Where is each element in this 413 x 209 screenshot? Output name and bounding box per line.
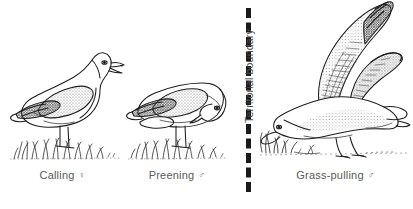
boundary-label: Territorial boundary	[243, 0, 255, 176]
caption-preening-label: Preening	[149, 169, 195, 181]
panel-calling: Calling♀	[0, 0, 125, 209]
sex-symbol-female: ♀	[79, 170, 86, 180]
panel-grass-pulling: Grass-pulling♂	[258, 0, 413, 209]
panel-preening: Preening♂	[118, 0, 236, 209]
preening-gull-illustration	[118, 0, 236, 168]
sex-symbol-male-preening: ♂	[198, 170, 205, 180]
caption-calling: Calling♀	[0, 169, 125, 181]
territorial-boundary: Territorial boundary	[244, 8, 253, 192]
gull-display-behaviour-figure: Calling♀	[0, 0, 413, 209]
calling-gull-illustration	[0, 0, 125, 168]
sex-symbol-male-grass: ♂	[368, 170, 375, 180]
caption-grass-pulling: Grass-pulling♂	[258, 169, 413, 181]
caption-calling-label: Calling	[40, 169, 75, 181]
caption-grass-pulling-label: Grass-pulling	[296, 169, 363, 181]
caption-preening: Preening♂	[118, 169, 236, 181]
grass-pulling-gull-illustration	[258, 0, 413, 168]
